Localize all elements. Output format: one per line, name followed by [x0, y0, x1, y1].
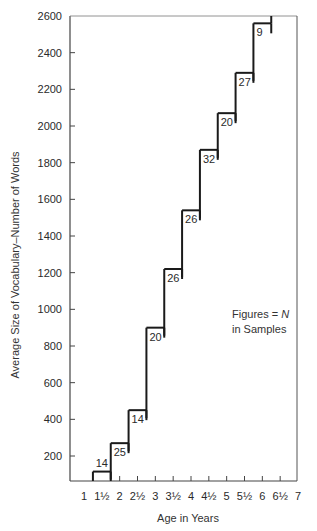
y-tick-label: 1800 — [38, 157, 62, 169]
x-tick-label: 5½ — [237, 490, 252, 502]
sample-size-label: 20 — [221, 116, 233, 128]
x-tick-label: 3½ — [166, 490, 181, 502]
y-tick-label: 1000 — [38, 303, 62, 315]
y-tick-label: 800 — [44, 340, 62, 352]
legend-note-line2: in Samples — [232, 323, 287, 335]
y-tick-label: 2200 — [38, 83, 62, 95]
sample-size-label: 20 — [149, 331, 161, 343]
n-symbol: N — [281, 308, 289, 320]
x-tick-label: 3 — [152, 490, 158, 502]
y-tick-label: 1600 — [38, 193, 62, 205]
sample-size-labels: 1425142026263220279 — [96, 26, 263, 468]
x-tick-label: 2½ — [130, 490, 145, 502]
y-axis: 2004006008001000120014001600180020002200… — [38, 10, 75, 462]
vocabulary-step-chart: 2004006008001000120014001600180020002200… — [0, 0, 317, 531]
x-axis: 11½22½33½44½55½66½7 — [81, 476, 301, 502]
sample-size-label: 14 — [132, 413, 144, 425]
x-tick-label: 2 — [117, 490, 123, 502]
y-tick-label: 2400 — [38, 47, 62, 59]
y-axis-title: Average Size of Vocabulary–Number of Wor… — [9, 151, 21, 379]
y-tick-label: 2600 — [38, 10, 62, 22]
sample-size-label: 14 — [96, 457, 108, 469]
sample-size-label: 9 — [256, 26, 262, 38]
legend-note-line1: Figures = N — [232, 308, 289, 320]
x-tick-label: 7 — [295, 490, 301, 502]
x-tick-label: 4½ — [201, 490, 216, 502]
sample-size-label: 26 — [185, 213, 197, 225]
y-tick-label: 200 — [44, 450, 62, 462]
sample-size-label: 25 — [114, 446, 126, 458]
x-tick-label: 1 — [81, 490, 87, 502]
y-tick-label: 1200 — [38, 267, 62, 279]
sample-size-label: 32 — [203, 153, 215, 165]
y-tick-label: 600 — [44, 377, 62, 389]
sample-size-label: 26 — [167, 272, 179, 284]
y-tick-label: 1400 — [38, 230, 62, 242]
y-tick-label: 400 — [44, 413, 62, 425]
x-tick-label: 6½ — [273, 490, 288, 502]
x-axis-title: Age in Years — [157, 512, 219, 524]
x-tick-label: 6 — [259, 490, 265, 502]
plot-frame — [70, 16, 297, 481]
sample-size-label: 27 — [239, 76, 251, 88]
x-tick-label: 1½ — [94, 490, 109, 502]
x-tick-label: 5 — [224, 490, 230, 502]
x-tick-label: 4 — [188, 490, 194, 502]
y-tick-label: 2000 — [38, 120, 62, 132]
